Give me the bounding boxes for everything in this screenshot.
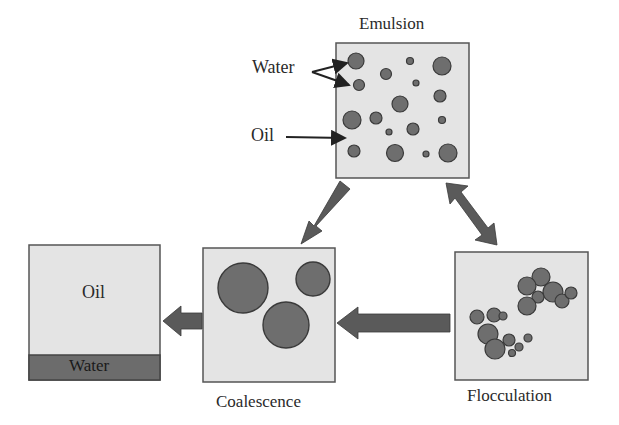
arrow-emulsion-flocculation-double	[446, 183, 497, 245]
oil-annotation-label: Oil	[251, 125, 274, 146]
emulsion-label: Emulsion	[359, 14, 424, 34]
arrow-flocculation-to-coalescence	[337, 307, 450, 339]
water-annotation-label: Water	[252, 57, 295, 78]
oil-layer-label: Oil	[82, 282, 105, 303]
oil-pointer-arrow	[286, 137, 345, 138]
flocculation-box	[455, 252, 588, 380]
arrow-coalescence-to-separation	[163, 306, 202, 336]
coalescence-label: Coalescence	[216, 392, 301, 412]
arrow-emulsion-to-coalescence	[301, 181, 350, 244]
water-layer-label: Water	[69, 356, 109, 376]
coalescence-box	[203, 248, 335, 382]
flocculation-label: Flocculation	[467, 386, 552, 406]
emulsion-box	[336, 43, 469, 178]
